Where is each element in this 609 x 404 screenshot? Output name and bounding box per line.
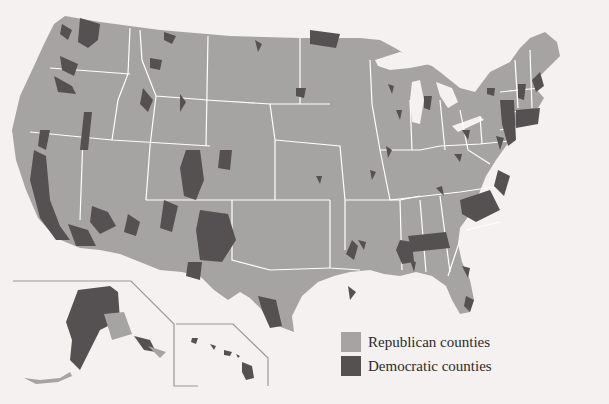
legend-item-democratic: Democratic counties (341, 355, 492, 377)
democratic-swatch (341, 356, 361, 376)
hawaii-inset (191, 338, 254, 380)
legend: Republican counties Democratic counties (341, 331, 492, 379)
alaska-inset (24, 286, 166, 384)
contiguous-us-landmass (12, 16, 560, 332)
legend-label: Democratic counties (368, 358, 492, 375)
republican-swatch (341, 332, 361, 352)
legend-label: Republican counties (368, 334, 490, 351)
legend-item-republican: Republican counties (341, 331, 492, 353)
us-county-map (0, 0, 609, 404)
